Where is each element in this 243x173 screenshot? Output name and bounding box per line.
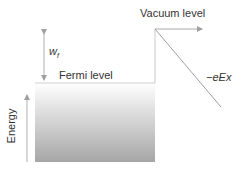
field-potential-line bbox=[155, 29, 221, 107]
work-function-subscript: f bbox=[57, 52, 59, 59]
work-function-symbol: w bbox=[49, 45, 57, 57]
energy-diagram bbox=[0, 0, 243, 173]
energy-axis-label: Energy bbox=[5, 109, 17, 144]
fermi-level-label: Fermi level bbox=[59, 69, 113, 81]
field-potential-label: −eEx bbox=[206, 71, 231, 83]
vacuum-level-label: Vacuum level bbox=[140, 7, 205, 19]
filled-states-region bbox=[35, 83, 155, 162]
work-function-label: wf bbox=[49, 45, 59, 59]
